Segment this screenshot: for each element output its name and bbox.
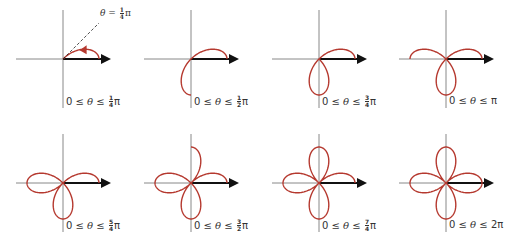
panel-6 — [144, 134, 239, 232]
theta-range-label: 0 ≤ θ ≤ 34π — [322, 95, 376, 108]
theta-range-label: 0 ≤ θ ≤ 74π — [322, 219, 376, 232]
polar-axis-arrowhead-icon — [101, 178, 111, 188]
polar-axis-arrowhead-icon — [357, 54, 367, 64]
panel-8 — [399, 134, 494, 232]
polar-axis-arrowhead-icon — [357, 178, 367, 188]
theta-range-label: 0 ≤ θ ≤ 32π — [194, 219, 248, 232]
polar-axis-arrowhead-icon — [484, 54, 494, 64]
rose-curve-diagram — [0, 0, 513, 250]
panel-1 — [16, 10, 111, 108]
theta-range-label: 0 ≤ θ ≤ π — [449, 95, 497, 107]
polar-axis-arrowhead-icon — [229, 178, 239, 188]
theta-range-label: 0 ≤ θ ≤ 2π — [449, 219, 503, 231]
theta-annotation: θ = 14π — [100, 7, 131, 20]
polar-axis-arrowhead-icon — [229, 54, 239, 64]
direction-arrow-icon — [80, 45, 87, 54]
theta-ray — [63, 23, 99, 59]
panel-2 — [144, 10, 239, 108]
panel-4 — [399, 10, 494, 108]
theta-range-label: 0 ≤ θ ≤ 14π — [66, 95, 120, 108]
polar-axis-arrowhead-icon — [101, 54, 111, 64]
polar-axis-arrowhead-icon — [484, 178, 494, 188]
panel-7 — [272, 134, 367, 232]
rose-curve — [309, 49, 355, 95]
rose-curve — [181, 49, 227, 95]
panel-3 — [272, 10, 367, 108]
theta-range-label: 0 ≤ θ ≤ 12π — [194, 95, 248, 108]
panel-5 — [16, 134, 111, 232]
theta-range-label: 0 ≤ θ ≤ 54π — [66, 219, 120, 232]
